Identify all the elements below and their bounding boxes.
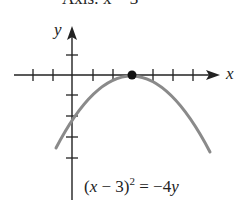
equation-var-y: y xyxy=(171,177,179,196)
equation-part: = −4 xyxy=(135,177,171,196)
equation-part: − 3) xyxy=(97,177,129,196)
equation-label: (x − 3)2 = −4y xyxy=(84,175,179,197)
x-axis-label: x xyxy=(226,64,234,84)
parabola-curve xyxy=(56,76,210,152)
vertex-point xyxy=(128,71,137,80)
y-axis-label: y xyxy=(54,20,62,40)
